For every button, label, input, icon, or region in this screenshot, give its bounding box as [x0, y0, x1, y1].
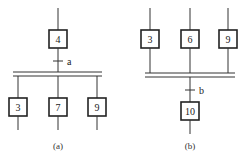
transition-label: b [199, 85, 204, 96]
step-label: 3 [148, 34, 153, 45]
diagram-b: 3 6 9 b 10 (b) [141, 8, 237, 151]
diagram-a: 4 a 3 7 9 (a) [9, 8, 106, 151]
caption-b: (b) [185, 141, 196, 151]
step-label: 6 [188, 34, 193, 45]
sfc-diagrams: 4 a 3 7 9 (a) 3 6 9 b [0, 0, 244, 159]
step-label: 3 [16, 102, 21, 113]
step-label: 9 [226, 34, 231, 45]
step-label: 7 [56, 102, 61, 113]
step-label: 9 [95, 102, 100, 113]
step-label: 4 [56, 34, 61, 45]
transition-label: a [67, 56, 72, 67]
caption-a: (a) [53, 141, 63, 151]
step-label: 10 [185, 106, 195, 117]
